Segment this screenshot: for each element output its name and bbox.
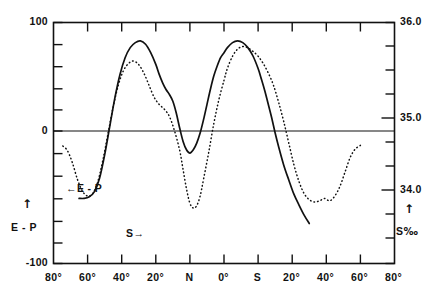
frame-rect	[54, 23, 395, 264]
right-axis-up-arrow-icon: ↑	[404, 203, 414, 215]
right-axis-title: S‰	[396, 226, 436, 237]
plot-frame	[54, 23, 395, 264]
left-tick-label-minus100: -100	[0, 257, 48, 268]
left-axis-up-arrow-icon: ↑	[22, 198, 32, 210]
right-tick-label-35: 35.0	[400, 112, 448, 123]
right-axis-title-permille: ‰	[404, 226, 419, 237]
right-tick-label-34: 34.0	[400, 184, 448, 195]
series-ep-curve	[62, 47, 360, 209]
annotation-s-label: S→	[126, 228, 144, 239]
bottom-axis-ticks	[88, 255, 361, 264]
top-axis-ticks	[88, 23, 361, 32]
left-axis-ticks	[54, 23, 63, 264]
right-axis-ticks	[382, 23, 395, 264]
chart-plot-area	[0, 0, 448, 296]
bottom-tick-label-10: 80°	[373, 272, 414, 283]
left-tick-label-0: 0	[0, 125, 48, 136]
left-axis-title: E - P	[2, 222, 46, 233]
right-axis-title-s: S	[396, 225, 404, 237]
chart-figure: 100 0 -100 36.0 35.0 34.0 80° 60° 40° 20…	[0, 0, 448, 296]
right-tick-label-36: 36.0	[400, 16, 448, 27]
left-tick-label-100: 100	[0, 16, 48, 27]
series-s-curve	[79, 41, 309, 224]
annotation-ep-label: ←E - P	[66, 183, 102, 194]
